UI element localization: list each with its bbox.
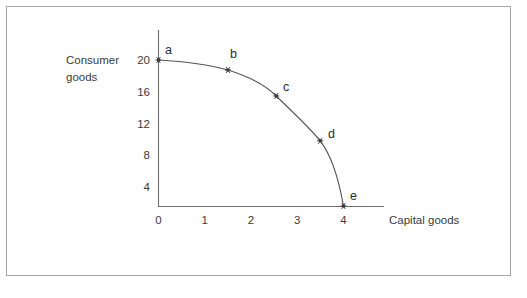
ppf-curve-path <box>159 60 344 206</box>
data-point-b <box>225 67 231 73</box>
x-tick-label-2: 2 <box>248 214 254 226</box>
point-label-e: e <box>350 189 357 203</box>
point-label-c: c <box>283 80 289 94</box>
x-tick-label-4: 4 <box>340 214 347 226</box>
point-label-d: d <box>328 127 335 141</box>
figure-container: 20 16 12 8 4 0 1 2 3 4 Consumer goods Ca… <box>0 0 527 298</box>
y-tick-label-20: 20 <box>137 54 150 66</box>
x-tick-label-1: 1 <box>202 214 208 226</box>
x-axis-title: Capital goods <box>389 214 460 226</box>
x-tick-label-0: 0 <box>155 214 161 226</box>
y-tick-label-8: 8 <box>144 149 150 161</box>
y-axis-title-line1: Consumer <box>66 54 119 66</box>
point-label-b: b <box>230 47 237 61</box>
y-tick-label-12: 12 <box>137 118 150 130</box>
point-label-a: a <box>165 43 172 57</box>
x-tick-label-3: 3 <box>294 214 300 226</box>
y-tick-label-4: 4 <box>144 181 151 193</box>
y-tick-label-16: 16 <box>137 86 150 98</box>
y-axis-title-line2: goods <box>66 71 98 83</box>
ppf-chart: 20 16 12 8 4 0 1 2 3 4 Consumer goods Ca… <box>0 0 527 298</box>
